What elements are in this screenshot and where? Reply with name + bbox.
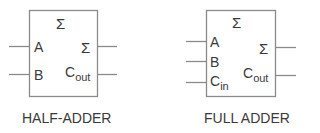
half-adder-caption: HALF-ADDER — [22, 111, 111, 125]
full-adder-cout-subscript: out — [253, 72, 268, 84]
full-adder-cout-main: C — [243, 65, 253, 81]
full-adder-caption: FULL ADDER — [204, 111, 290, 125]
half-adder-input-b-label: B — [34, 68, 43, 82]
full-adder-cin-main: C — [210, 73, 220, 89]
full-adder-input-cin-label: Cin — [210, 74, 229, 88]
half-adder-cout-subscript: out — [75, 71, 90, 83]
full-adder-top-sigma: Σ — [232, 15, 241, 30]
full-adder-output-sum-label: Σ — [259, 41, 268, 56]
half-adder-input-a-label: A — [34, 40, 43, 54]
full-adder-input-b-label: B — [210, 55, 219, 69]
half-adder-output-sum-label: Σ — [81, 40, 90, 55]
full-adder-cin-subscript: in — [220, 80, 229, 92]
full-adder-output-cout-label: Cout — [243, 66, 268, 80]
half-adder-top-sigma: Σ — [56, 16, 65, 31]
half-adder-cout-main: C — [65, 64, 75, 80]
full-adder-input-a-label: A — [210, 35, 219, 49]
half-adder-output-cout-label: Cout — [65, 65, 90, 79]
